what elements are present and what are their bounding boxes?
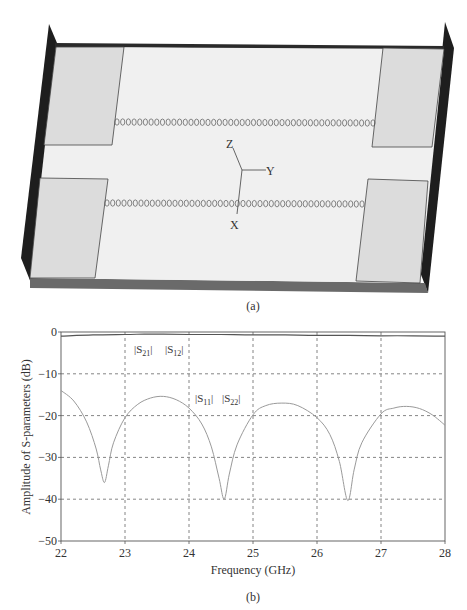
series-line-s21-s12 — [61, 334, 445, 336]
figure-a-caption: (a) — [233, 299, 273, 314]
figure-a-substrate-3d: Z Y X — [0, 0, 467, 300]
x-axis-ticks: 22232425262728 — [55, 541, 451, 560]
y-tick-label: −50 — [38, 534, 57, 548]
x-tick-label: 26 — [311, 546, 323, 560]
series-line-s11-s22 — [61, 391, 445, 501]
y-axis-label: Amplitude of S-parameters (dB) — [19, 359, 33, 515]
y-tick-label: 0 — [51, 325, 57, 339]
axis-label-x: X — [230, 218, 239, 232]
x-tick-label: 24 — [183, 546, 195, 560]
y-tick-label: −10 — [38, 367, 57, 381]
y-tick-label: −40 — [38, 492, 57, 506]
axis-label-y: Y — [266, 164, 275, 178]
pad-bottom-left — [30, 178, 108, 278]
svg-text:|S21|: |S21| — [134, 343, 153, 358]
y-axis-ticks: 0−10−20−30−40−50 — [38, 325, 61, 548]
plot-frame — [61, 332, 445, 541]
svg-text:|S11|: |S11| — [195, 392, 213, 407]
annotation-s21-s12: |S21| |S12| — [134, 343, 184, 358]
figure-b-caption: (b) — [233, 590, 273, 605]
pad-bottom-right — [356, 179, 428, 283]
pad-top-left — [44, 47, 124, 145]
x-axis-label: Frequency (GHz) — [211, 563, 295, 577]
x-tick-label: 27 — [375, 546, 387, 560]
axis-label-z: Z — [226, 137, 233, 151]
chart-series — [61, 334, 445, 501]
svg-text:|S12|: |S12| — [165, 343, 184, 358]
annotation-s11-s22: |S11| |S22| — [195, 392, 241, 407]
x-tick-label: 25 — [247, 546, 259, 560]
x-tick-label: 28 — [439, 546, 451, 560]
x-tick-label: 23 — [119, 546, 131, 560]
pad-top-right — [372, 48, 444, 147]
svg-text:|S22|: |S22| — [222, 392, 241, 407]
chart-grid — [61, 332, 445, 541]
x-tick-label: 22 — [55, 546, 67, 560]
y-tick-label: −30 — [38, 450, 57, 464]
y-tick-label: −20 — [38, 409, 57, 423]
